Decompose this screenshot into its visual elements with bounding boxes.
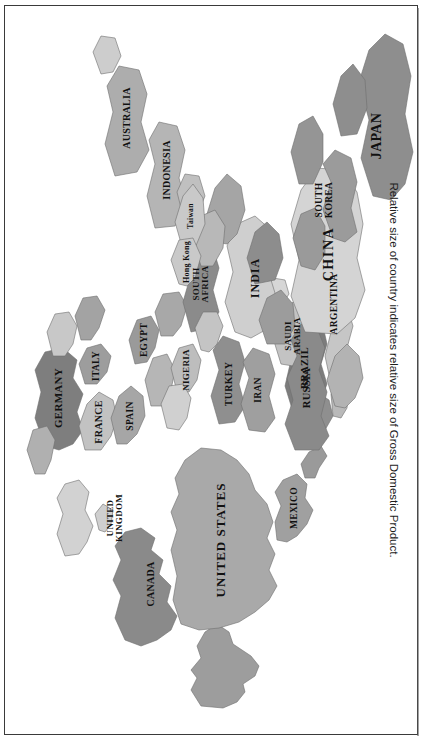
cartogram-svg [5, 6, 419, 736]
map-label-canada: CANADA [146, 561, 156, 606]
map-rotated-container: JAPAN SOUTH KOREA Hong Kong Taiwan CHINA… [5, 6, 419, 736]
map-label-uk-line2: KINGDOM [115, 494, 124, 542]
map-label-japan: JAPAN [370, 113, 384, 159]
map-label-south-africa: SOUTH AFRICA [192, 266, 210, 303]
map-label-turkey: TURKEY [224, 362, 234, 407]
country-shape-balkans [75, 296, 105, 340]
figure-frame: JAPAN SOUTH KOREA Hong Kong Taiwan CHINA… [4, 5, 418, 735]
country-shape-alaska [191, 624, 259, 708]
map-stage: JAPAN SOUTH KOREA Hong Kong Taiwan CHINA… [5, 6, 419, 736]
figure-caption: Relative size of country indicates relat… [383, 6, 405, 734]
map-label-brazil: BRAZIL [300, 347, 311, 389]
map-label-united-states: UNITED STATES [214, 483, 227, 598]
map-label-germany: GERMANY [53, 368, 64, 428]
map-label-indonesia: INDONESIA [162, 140, 172, 199]
map-label-mexico: MEXICO [290, 487, 300, 529]
country-shape-central-europe [47, 312, 77, 356]
map-label-south-korea: SOUTH KOREA [315, 182, 334, 218]
country-shape-nordics [27, 426, 55, 474]
map-label-australia: AUSTRALIA [122, 87, 132, 149]
map-label-egypt: EGYPT [140, 323, 150, 357]
figure-caption-text: Relative size of country indicates relat… [388, 182, 400, 557]
map-label-france: FRANCE [94, 400, 104, 443]
map-label-italy: ITALY [92, 351, 102, 381]
map-label-south-korea-line2: KOREA [325, 182, 335, 218]
country-shape-east-africa [155, 292, 187, 336]
country-shape-central-america [301, 446, 327, 478]
country-shape-united-kingdom [57, 480, 93, 556]
map-label-argentina: ARGENTINA [330, 274, 340, 335]
map-label-spain: SPAIN [126, 401, 136, 430]
map-label-iran: IRAN [254, 377, 264, 402]
map-label-south-africa-line2: AFRICA [201, 266, 210, 303]
map-label-nigeria: NIGERIA [182, 349, 191, 391]
map-label-india: INDIA [249, 258, 261, 298]
country-shape-new-zealand [93, 36, 121, 74]
map-label-united-kingdom: UNITED KINGDOM [106, 494, 124, 542]
map-label-taiwan: Taiwan [187, 203, 195, 228]
